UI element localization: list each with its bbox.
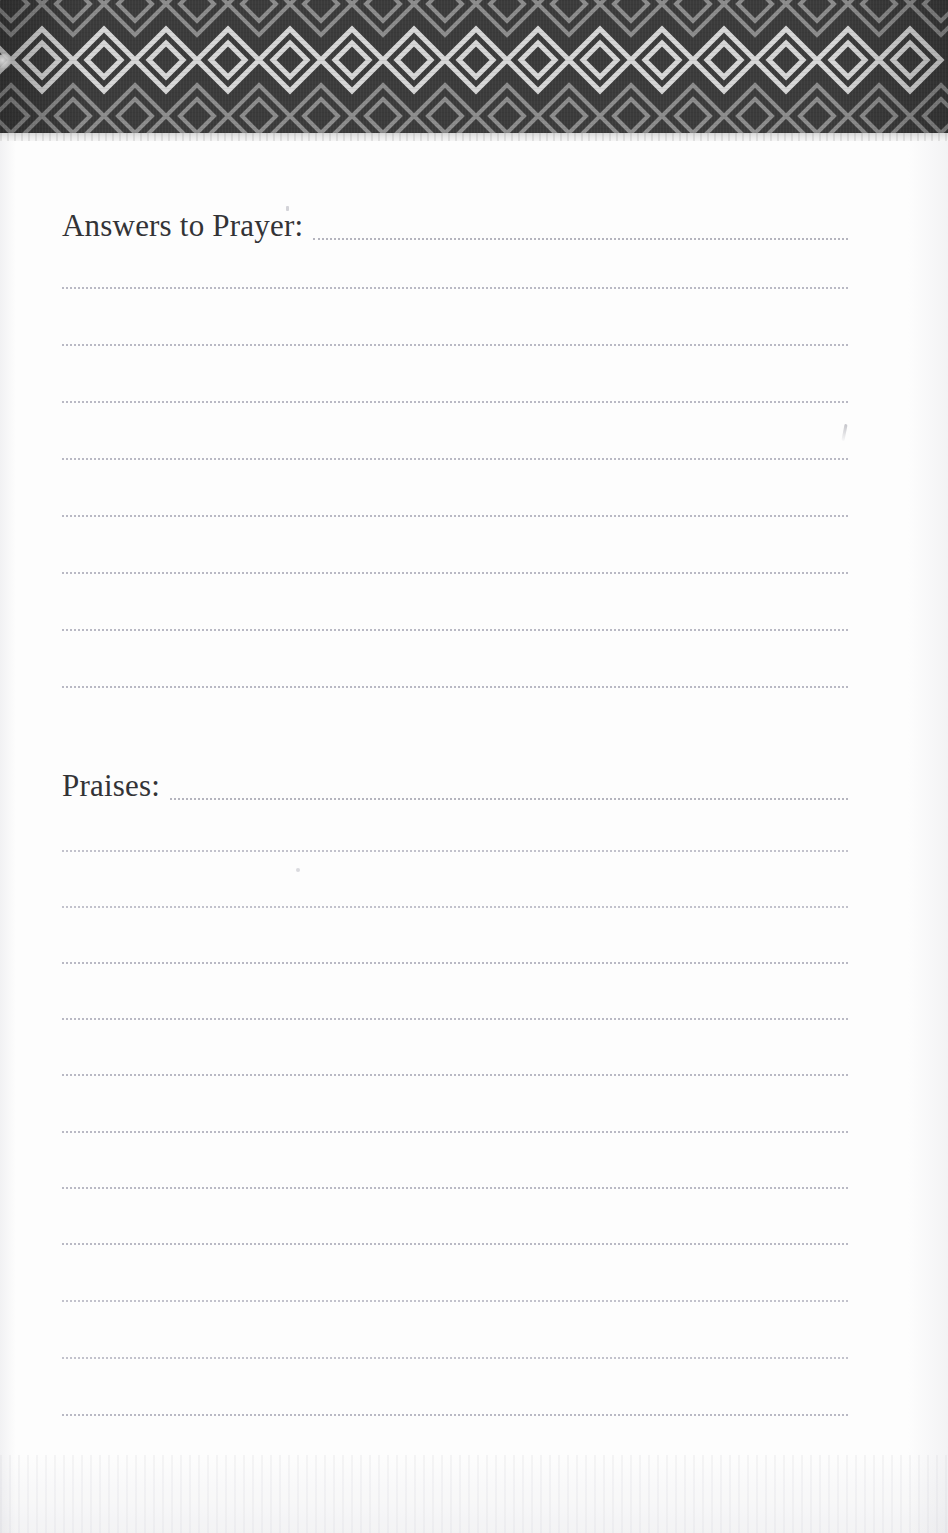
writing-line[interactable] xyxy=(62,570,848,574)
praises-heading: Praises: xyxy=(62,770,160,801)
writing-line[interactable] xyxy=(62,904,848,908)
answers-to-prayer-heading: Answers to Prayer: xyxy=(62,210,303,241)
paper-bottom-texture xyxy=(0,1455,948,1533)
writing-line[interactable] xyxy=(62,1129,848,1133)
writing-line[interactable] xyxy=(62,627,848,631)
writing-line[interactable] xyxy=(62,960,848,964)
paper-right-texture xyxy=(908,141,948,1533)
praises-heading-rule[interactable] xyxy=(170,795,848,800)
header-underline-strip xyxy=(0,133,948,141)
answers-to-prayer-heading-rule[interactable] xyxy=(313,235,848,240)
writing-line[interactable] xyxy=(62,1185,848,1189)
writing-line[interactable] xyxy=(62,1241,848,1245)
writing-line[interactable] xyxy=(62,1298,848,1302)
writing-line[interactable] xyxy=(62,1072,848,1076)
writing-line[interactable] xyxy=(62,342,848,346)
scan-slash-mark xyxy=(841,424,847,441)
scan-speck xyxy=(296,868,300,872)
writing-line[interactable] xyxy=(62,285,848,289)
writing-line[interactable] xyxy=(62,684,848,688)
journal-page: Answers to Prayer: Praises: xyxy=(0,0,948,1533)
praises-heading-row: Praises: xyxy=(62,770,848,801)
writing-line[interactable] xyxy=(62,1355,848,1359)
diamond-lattice-pattern xyxy=(0,0,948,133)
writing-line[interactable] xyxy=(62,513,848,517)
writing-line[interactable] xyxy=(62,1412,848,1416)
writing-line[interactable] xyxy=(62,1016,848,1020)
writing-line[interactable] xyxy=(62,399,848,403)
paper-left-texture xyxy=(0,141,16,1533)
decorative-diamond-border xyxy=(0,0,948,133)
writing-line[interactable] xyxy=(62,456,848,460)
underline-texture xyxy=(0,133,948,141)
answers-to-prayer-heading-row: Answers to Prayer: xyxy=(62,210,848,241)
writing-line[interactable] xyxy=(62,848,848,852)
